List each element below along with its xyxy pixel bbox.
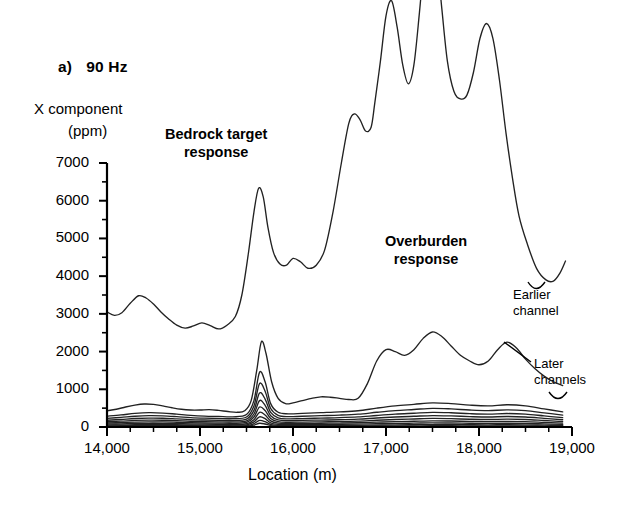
axes-group [99,163,572,436]
leader-line-later-channels [504,342,531,362]
curve-earlier-channel [107,0,565,329]
leader-arc-earlier-channel [528,282,545,289]
curve-later-channel-1 [107,332,563,412]
curve-group [107,0,565,426]
leader-arc-later-channels [549,392,567,399]
plot-area [0,0,628,508]
figure-panel-a: a)90 Hz X component (ppm) Bedrock target… [0,0,628,508]
leader-line-group [504,282,567,399]
